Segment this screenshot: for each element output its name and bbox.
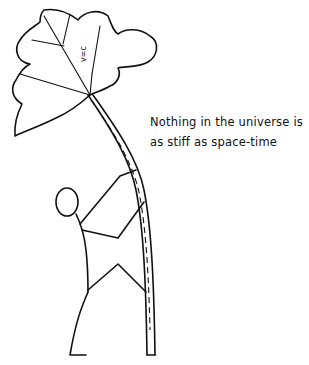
pole [88,95,155,355]
cartoon-illustration: v=c [0,0,309,365]
figure-body [76,214,88,292]
caption-line-2: as stiff as space-time [150,132,303,152]
figure-front-leg [88,264,146,292]
canopy-rib [90,74,92,95]
caption: Nothing in the universe is as stiff as s… [150,112,303,152]
figure-head [56,188,78,216]
caption-line-1: Nothing in the universe is [150,112,303,132]
canopy: v=c [13,9,157,136]
figure-upper-arm [80,170,136,224]
figure-lower-arm [82,202,144,238]
figure-back-leg [70,292,88,355]
canopy-rib [63,14,70,44]
stick-figure [56,170,146,355]
canopy-label: v=c [79,46,88,62]
canopy-rib [92,26,100,74]
